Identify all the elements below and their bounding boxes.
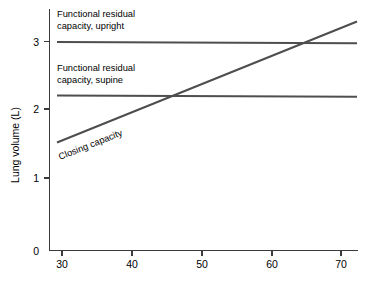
- x-tick-label-50: 50: [196, 258, 208, 270]
- chart-canvas: 3 2 1 0 30 40 50 60 70 Lung volume (L) F…: [0, 0, 375, 284]
- annotation-closing-capacity: Closing capacity: [57, 128, 124, 162]
- series-line-frc-supine: [57, 96, 357, 97]
- annotation-frc-upright-line1: Functional residual: [57, 9, 135, 19]
- x-tick-label-70: 70: [335, 258, 347, 270]
- annotation-frc-supine-line2: capacity, supine: [57, 75, 123, 85]
- y-tick-label-0: 0: [33, 245, 39, 257]
- y-tick-label-3: 3: [33, 36, 39, 48]
- x-tick-label-40: 40: [126, 258, 138, 270]
- annotation-frc-upright-line2: capacity, upright: [57, 21, 124, 31]
- series-line-frc-upright: [57, 42, 357, 43]
- x-tick-label-60: 60: [266, 258, 278, 270]
- y-axis-title: Lung volume (L): [9, 107, 21, 183]
- annotation-frc-supine-line1: Functional residual: [57, 63, 135, 73]
- x-tick-label-30: 30: [56, 258, 68, 270]
- y-tick-label-1: 1: [33, 172, 39, 184]
- lung-volume-chart-figure: 3 2 1 0 30 40 50 60 70 Lung volume (L) F…: [0, 0, 375, 284]
- y-tick-label-2: 2: [33, 103, 39, 115]
